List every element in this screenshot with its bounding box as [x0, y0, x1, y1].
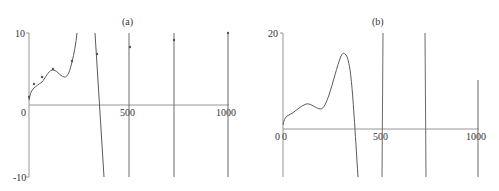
panel-a-marker [71, 60, 73, 62]
panel-a-marker [173, 39, 175, 41]
panel-a-marker [96, 53, 98, 55]
panel-b-ytick-20: 20 [268, 28, 278, 39]
panel-b-xtick-1000: 1000 [466, 131, 486, 142]
panel-b-title: (b) [372, 16, 384, 28]
panel-b: (b) 20 0 0 500 1000 [268, 16, 486, 177]
panel-a-marker [33, 83, 35, 85]
panel-a-marker [41, 76, 43, 78]
panel-a-curve [29, 33, 77, 100]
panel-a: (a) 10 0 -10 500 1000 [13, 16, 236, 183]
panel-b-ytick-0: 0 [275, 131, 280, 142]
panel-a-xtick-500: 500 [120, 107, 135, 118]
panel-a-ytick-neg10: -10 [13, 172, 26, 183]
panel-b-xtick-0: 0 [282, 131, 287, 142]
panel-b-xtick-500: 500 [373, 131, 388, 142]
panel-b-vline-725 [425, 33, 426, 177]
panel-a-title: (a) [122, 16, 133, 28]
figure: (a) 10 0 -10 500 1000 (b) [0, 0, 499, 191]
panel-a-marker [28, 96, 30, 98]
panel-b-vline-500 [382, 33, 383, 177]
panel-b-curve [283, 53, 358, 177]
panel-a-marker [227, 32, 229, 34]
panel-a-marker [52, 68, 54, 70]
panel-a-marker [129, 46, 131, 48]
panel-a-ytick-10: 10 [15, 28, 25, 39]
panel-a-ytick-0: 0 [21, 107, 26, 118]
panel-a-xtick-1000: 1000 [216, 107, 236, 118]
